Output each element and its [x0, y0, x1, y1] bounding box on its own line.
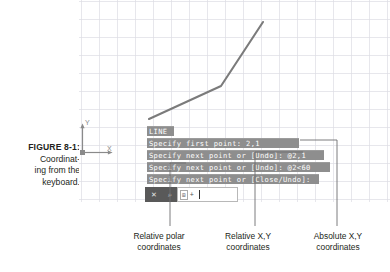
callout-line-1: Relative polar [133, 231, 184, 241]
callout-absolute-xy: Absolute X,Y coordinates [296, 231, 380, 252]
callout-relative-polar: Relative polar coordinates [112, 231, 206, 252]
callout-line-2: coordinates [137, 242, 180, 252]
figure-container: FIGURE 8-1: Coordinat- ing from the keyb… [0, 0, 390, 272]
callout-line-1: Relative X,Y [225, 231, 271, 241]
callout-line-2: coordinates [316, 242, 359, 252]
callout-line-1: Absolute X,Y [314, 231, 362, 241]
callout-relative-xy: Relative X,Y coordinates [208, 231, 288, 252]
callout-line-2: coordinates [226, 242, 269, 252]
